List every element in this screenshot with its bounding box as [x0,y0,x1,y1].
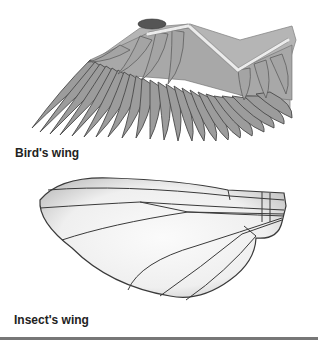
bird-wing-illustration [0,0,318,145]
insect-wing-label: Insect's wing [14,313,89,327]
wing-comparison-figure: Bird's wing Insect's wing [0,0,318,342]
separator-rule [0,337,318,340]
bird-wing-label: Bird's wing [15,146,79,160]
